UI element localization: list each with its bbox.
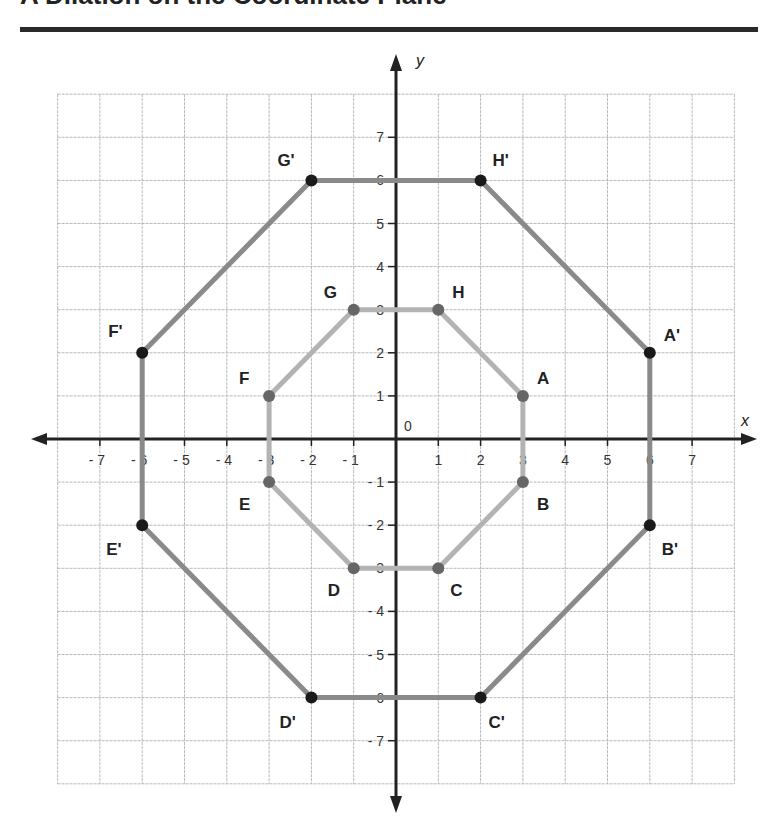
vertex-point-c-prime — [475, 692, 487, 704]
vertex-label: A' — [664, 326, 680, 345]
x-tick-label: - 7 — [89, 452, 106, 468]
vertex-label: G' — [277, 151, 294, 170]
vertex-point-f — [263, 390, 275, 402]
vertex-label: G — [324, 283, 337, 302]
vertex-label: C' — [489, 713, 505, 732]
y-axis-down-arrow-icon — [390, 796, 402, 813]
vertex-label: C — [450, 581, 462, 600]
y-tick-label: - 2 — [368, 517, 385, 533]
y-tick-label: 7 — [376, 129, 384, 145]
x-tick-label: 7 — [688, 452, 696, 468]
vertex-point-d-prime — [305, 692, 317, 704]
vertex-label: H — [452, 283, 464, 302]
x-tick-label: - 3 — [258, 452, 275, 468]
x-axis-left-arrow-icon — [31, 433, 47, 445]
vertex-point-h — [432, 304, 444, 316]
x-axis-label: x — [740, 412, 750, 429]
vertex-point-e-prime — [136, 519, 148, 531]
y-tick-label: - 5 — [368, 647, 385, 663]
x-tick-label: - 1 — [343, 452, 360, 468]
y-tick-label: - 7 — [368, 733, 385, 749]
vertex-label: A — [537, 369, 549, 388]
point-labels: ABCDEFGHA'B'C'D'E'F'G'H' — [106, 151, 680, 731]
vertex-label: F — [239, 369, 249, 388]
vertex-label: E — [239, 495, 250, 514]
vertex-point-a — [517, 390, 529, 402]
x-axis-right-arrow-icon — [741, 433, 757, 445]
origin-label: 0 — [404, 418, 412, 434]
vertex-label: E' — [106, 540, 121, 559]
y-axis-label: y — [415, 52, 425, 69]
vertex-point-b-prime — [644, 519, 656, 531]
vertex-point-h-prime — [475, 174, 487, 186]
coordinate-plane: xy0- 7- 6- 5- 4- 3- 2- 11234567- 7- 6- 5… — [0, 0, 778, 836]
x-tick-label: 2 — [477, 452, 485, 468]
y-tick-label: 2 — [376, 345, 384, 361]
vertex-label: F' — [108, 322, 122, 341]
x-tick-label: 1 — [434, 452, 442, 468]
vertex-label: D' — [279, 713, 295, 732]
x-tick-label: 5 — [604, 452, 612, 468]
vertex-label: D — [328, 581, 340, 600]
vertex-point-g-prime — [305, 174, 317, 186]
vertex-label: B — [537, 495, 549, 514]
x-tick-label: - 2 — [300, 452, 317, 468]
vertex-point-g — [348, 304, 360, 316]
y-tick-label: - 4 — [368, 603, 385, 619]
y-tick-label: - 1 — [368, 474, 385, 490]
vertex-point-b — [517, 476, 529, 488]
y-tick-label: 5 — [376, 216, 384, 232]
y-tick-label: 1 — [376, 388, 384, 404]
vertex-point-d — [348, 562, 360, 574]
y-axis-up-arrow-icon — [390, 54, 402, 71]
vertex-point-a-prime — [644, 347, 656, 359]
vertex-point-e — [263, 476, 275, 488]
x-tick-label: - 5 — [173, 452, 190, 468]
x-tick-label: - 4 — [216, 452, 233, 468]
vertex-point-c — [432, 562, 444, 574]
x-tick-label: 4 — [561, 452, 569, 468]
vertex-point-f-prime — [136, 347, 148, 359]
y-tick-label: 4 — [376, 259, 384, 275]
vertex-label: B' — [662, 540, 678, 559]
vertex-label: H' — [493, 151, 509, 170]
x-tick-label: - 6 — [131, 452, 148, 468]
